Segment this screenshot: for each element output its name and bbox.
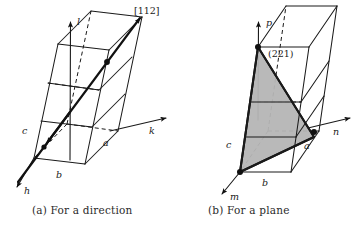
direction-vector-112 bbox=[18, 18, 140, 182]
plane-intercept-node bbox=[237, 169, 243, 175]
lattice-node bbox=[41, 144, 46, 149]
axis-label-m: m bbox=[230, 191, 239, 200]
edge-label-b: b bbox=[262, 177, 268, 188]
lattice-node bbox=[104, 59, 110, 65]
edge-label-c: c bbox=[22, 125, 28, 136]
edge-label-a: a bbox=[103, 137, 109, 148]
edge-label-a: a bbox=[304, 140, 310, 151]
caption-row: (a) For a direction (b) For a plane bbox=[0, 200, 356, 231]
edge-label-b: b bbox=[56, 169, 62, 180]
figure-root: l k h bbox=[0, 0, 356, 231]
edge-label-c: c bbox=[226, 139, 232, 150]
axis-label-n: n bbox=[333, 126, 339, 137]
plane-intercept-node bbox=[311, 129, 317, 135]
caption-direction: (a) For a direction bbox=[32, 204, 132, 216]
direction-index-label: [112] bbox=[134, 5, 160, 16]
panel-direction: l k h bbox=[0, 0, 178, 200]
axis-n bbox=[308, 118, 350, 128]
axis-label-l: l bbox=[77, 16, 80, 27]
axis-label-p: p bbox=[266, 17, 272, 28]
axis-label-h: h bbox=[24, 185, 30, 196]
axis-label-k: k bbox=[149, 125, 155, 136]
panel-plane: p n m bbox=[178, 0, 356, 200]
direction-diagram: l k h bbox=[0, 0, 178, 200]
caption-plane: (b) For a plane bbox=[208, 204, 290, 216]
plane-index-label: (221) bbox=[268, 48, 294, 59]
cell-hidden-edges bbox=[34, 11, 118, 158]
plane-diagram: p n m bbox=[178, 0, 356, 200]
axis-l bbox=[70, 22, 71, 160]
plane-intercept-node bbox=[255, 44, 261, 50]
